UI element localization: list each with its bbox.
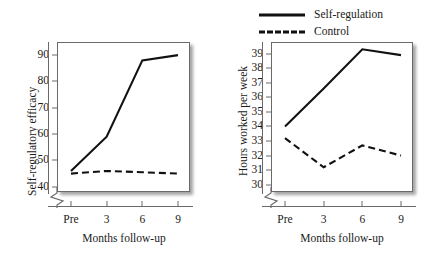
- plot-area-right: [271, 42, 413, 192]
- line-series-container-right: [271, 42, 413, 192]
- chart-panel-hours-worked-per-week: Self-regulation Control Hours worked per…: [221, 0, 443, 260]
- y-tick-mark: [52, 55, 57, 56]
- legend-label-self-regulation: Self-regulation: [314, 9, 383, 21]
- legend-swatch-solid: [259, 10, 305, 20]
- y-axis-break-icon: [262, 186, 282, 208]
- y-axis-label-text: Hours worked per week: [237, 66, 249, 176]
- y-axis-line: [262, 42, 263, 194]
- y-tick-mark: [266, 82, 271, 83]
- legend: Self-regulation Control: [259, 6, 439, 40]
- series-line-control: [71, 171, 178, 174]
- x-tick-label: 9: [175, 214, 181, 226]
- y-tick-mark: [266, 97, 271, 98]
- x-tick-label: 6: [139, 214, 145, 226]
- y-tick-mark: [266, 53, 271, 54]
- x-axis-label: Months follow-up: [82, 232, 165, 245]
- y-axis-break-icon: [48, 186, 68, 208]
- x-tick-label: Pre: [277, 214, 292, 226]
- legend-item-control: Control: [259, 23, 439, 40]
- legend-swatch-dashed: [259, 27, 305, 37]
- y-tick-mark: [52, 107, 57, 108]
- y-tick-mark: [52, 160, 57, 161]
- series-line-control: [285, 138, 401, 167]
- figure-root: Self-regulatory efficacy 405060708090 Pr…: [0, 0, 443, 260]
- series-line-self-regulation: [71, 55, 178, 171]
- x-tick-label: 6: [359, 214, 365, 226]
- x-tick-label: 3: [321, 214, 327, 226]
- chart-panel-self-regulatory-efficacy: Self-regulatory efficacy 405060708090 Pr…: [0, 0, 221, 260]
- x-tick-label: 3: [104, 214, 110, 226]
- y-tick-mark: [266, 126, 271, 127]
- x-axis-label: Months follow-up: [300, 232, 383, 245]
- series-line-self-regulation: [285, 49, 401, 126]
- y-tick-mark: [266, 68, 271, 69]
- x-tick-label: Pre: [63, 214, 78, 226]
- y-tick-mark: [266, 155, 271, 156]
- y-tick-mark: [266, 111, 271, 112]
- x-tick-label: 9: [398, 214, 404, 226]
- line-series-container-left: [57, 42, 190, 192]
- plot-area-left: [57, 42, 190, 192]
- legend-label-control: Control: [314, 26, 349, 38]
- y-axis-line: [48, 42, 49, 194]
- y-tick-mark: [266, 141, 271, 142]
- x-axis-line: [262, 206, 416, 207]
- y-tick-mark: [52, 134, 57, 135]
- y-axis-label: Hours worked per week: [237, 46, 250, 196]
- legend-item-self-regulation: Self-regulation: [259, 6, 439, 23]
- y-tick-mark: [52, 81, 57, 82]
- y-tick-mark: [266, 170, 271, 171]
- x-axis-line: [48, 206, 193, 207]
